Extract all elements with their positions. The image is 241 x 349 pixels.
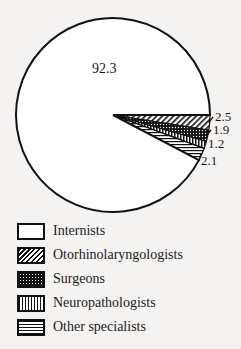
leader-line [204, 144, 206, 145]
legend-item-internists: Internists [17, 219, 183, 243]
slice-label-neuropathologists: 1.2 [208, 136, 224, 151]
pie-slice-internists [16, 18, 210, 212]
legend-item-otorhinolaryngologists: Otorhinolaryngologists [17, 243, 183, 267]
swatch-vertical-lines-icon [17, 295, 45, 312]
slice-label-surgeons: 1.9 [213, 122, 229, 137]
slice-label-internists: 92.3 [92, 61, 117, 76]
legend: Internists Otorhinolaryngologists Surgeo… [17, 219, 183, 339]
slice-label-other-specialists: 2.1 [201, 153, 217, 168]
legend-item-other-specialists: Other specialists [17, 315, 183, 339]
swatch-horizontal-lines-icon [17, 319, 45, 336]
legend-item-surgeons: Surgeons [17, 267, 183, 291]
pie-chart: 92.3 2.51.91.22.1 [0, 0, 241, 215]
swatch-diagonal-hatch-icon [17, 247, 45, 264]
legend-item-neuropathologists: Neuropathologists [17, 291, 183, 315]
swatch-dots-icon [17, 271, 45, 288]
swatch-blank-icon [17, 223, 45, 240]
